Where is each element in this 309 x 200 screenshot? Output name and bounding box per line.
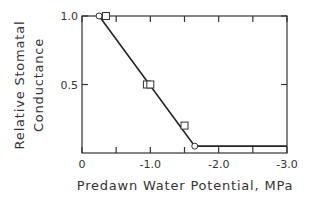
y-axis-label-line1: Relative Stomatal	[12, 21, 27, 150]
data-series	[96, 13, 287, 150]
y-tick-label: 0.5	[61, 79, 79, 92]
circle-marker	[192, 143, 198, 149]
square-marker	[102, 13, 109, 20]
x-tick-label: -2.0	[208, 158, 229, 171]
x-tick-label: 0	[79, 158, 86, 171]
x-tick-label: -3.0	[276, 158, 297, 171]
y-axis-label-line2: Conductance	[31, 38, 46, 132]
x-tick-label: -1.0	[140, 158, 161, 171]
circle-marker	[96, 13, 102, 19]
chart: 0-1.0-2.0-3.01.00.5 Predawn Water Potent…	[0, 0, 309, 200]
square-marker	[181, 122, 188, 129]
x-axis-label: Predawn Water Potential, MPa	[77, 178, 294, 193]
square-marker	[147, 81, 154, 88]
fit-line	[99, 16, 287, 146]
y-tick-label: 1.0	[61, 10, 79, 23]
